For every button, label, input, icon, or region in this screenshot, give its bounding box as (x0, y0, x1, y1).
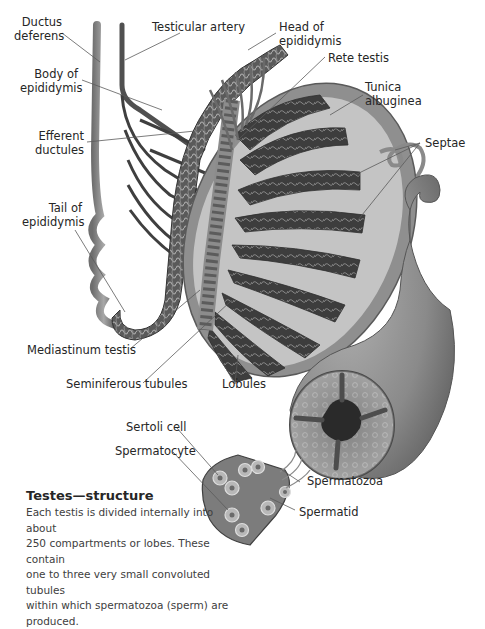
caption-line: Each testis is divided internally into a… (26, 505, 246, 536)
label-line: Ductus (14, 15, 62, 29)
caption-body: Each testis is divided internally into a… (26, 505, 246, 629)
label-sertoli-cell: Sertoli cell (126, 420, 186, 434)
label-testicular-artery: Testicular artery (152, 20, 245, 34)
label-line: deferens (14, 29, 62, 43)
label-seminiferous-tubules: Seminiferous tubules (66, 377, 187, 391)
label-spermatocyte: Spermatocyte (115, 444, 196, 458)
label-spermatozoa: Spermatozoa (307, 474, 383, 488)
caption-title: Testes—structure (26, 488, 154, 503)
caption-line: one to three very small convoluted tubul… (26, 567, 246, 598)
label-lobules: Lobules (222, 377, 266, 391)
label-line: albuginea (365, 94, 422, 108)
caption-line: within which spermatozoa (sperm) are pro… (26, 598, 246, 629)
label-mediastinum-testis: Mediastinum testis (27, 343, 136, 357)
label-line: ductules (24, 143, 84, 157)
label-line: Body of (20, 67, 78, 81)
label-line: Tail of (22, 201, 82, 215)
label-line: Efferent (24, 129, 84, 143)
label-spermatid: Spermatid (299, 505, 358, 519)
label-tunica-albuginea: Tunica albuginea (365, 80, 422, 108)
label-body-of-epididymis: Body of epididymis (20, 67, 78, 95)
label-septae: Septae (425, 136, 465, 150)
ductus-deferens-tube (93, 25, 116, 325)
caption-line: 250 compartments or lobes. These contain (26, 536, 246, 567)
label-tail-of-epididymis: Tail of epididymis (22, 201, 82, 229)
label-line: Tunica (365, 80, 422, 94)
label-ductus-deferens: Ductus deferens (14, 15, 62, 43)
label-line: epididymis (279, 34, 342, 48)
label-line: Head of (279, 20, 342, 34)
label-head-of-epididymis: Head of epididymis (279, 20, 342, 48)
label-efferent-ductules: Efferent ductules (24, 129, 84, 157)
label-line: epididymis (20, 81, 78, 95)
label-line: epididymis (22, 215, 82, 229)
label-rete-testis: Rete testis (328, 51, 389, 65)
